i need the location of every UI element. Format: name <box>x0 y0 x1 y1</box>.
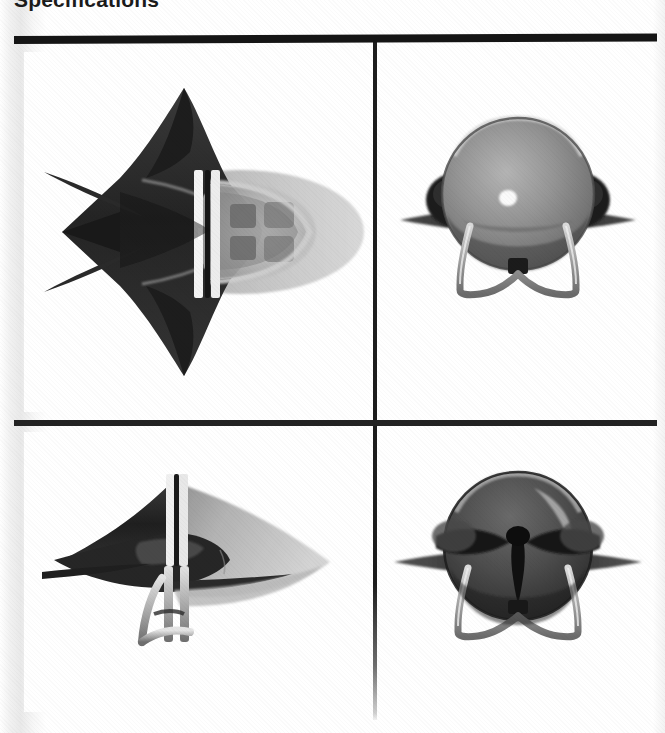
page-title-text: Specifications <box>14 0 314 10</box>
page-title: Specifications <box>14 0 314 11</box>
middle-horizontal-rule <box>14 420 657 426</box>
figure-grid: Top plan view of a swept-wing aircraft m… <box>0 0 665 733</box>
plan-view-illustration <box>24 52 368 412</box>
figure-panel-plan-view: Top plan view of a swept-wing aircraft m… <box>24 52 368 412</box>
front-view-illustration <box>384 52 652 412</box>
side-view-illustration <box>24 432 368 712</box>
vertical-divider-rule <box>373 40 377 720</box>
figure-panel-side-view: Side profile view of the aircraft model … <box>24 432 368 712</box>
scanned-page: Specifications Top plan view of a swept-… <box>0 0 665 733</box>
figure-panel-rear-view: Rear view of the aircraft model showing … <box>384 432 652 712</box>
figure-panel-front-view: Front view of the aircraft model showing… <box>384 52 652 412</box>
rear-view-illustration <box>384 432 652 712</box>
